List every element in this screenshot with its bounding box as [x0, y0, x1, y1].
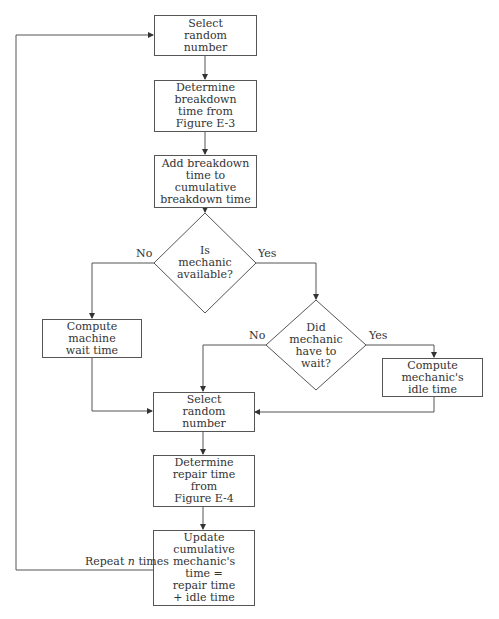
repeat-suffix: times	[135, 555, 169, 568]
select-random-number-box-2: Select random number	[153, 392, 255, 432]
repeat-prefix: Repeat	[85, 555, 128, 568]
update-cumulative-time-box: Update cumulative mechanic's time = repa…	[153, 530, 255, 606]
decision2-yes-label: Yes	[369, 330, 387, 342]
compute-machine-wait-box: Compute machine wait time	[42, 319, 142, 358]
decision1-yes-label: Yes	[258, 248, 276, 260]
determine-repair-time-box: Determine repair time from Figure E-4	[153, 455, 255, 507]
did-mechanic-wait-decision: Did mechanic have to wait?	[281, 318, 351, 374]
compute-mechanic-idle-box: Compute mechanic's idle time	[382, 358, 483, 397]
is-mechanic-available-decision: Is mechanic available?	[165, 240, 245, 286]
decision2-no-label: No	[249, 330, 265, 342]
determine-breakdown-time-box: Determine breakdown time from Figure E-3	[154, 80, 257, 132]
repeat-n-times-label: Repeat n times	[85, 556, 169, 568]
add-breakdown-time-box: Add breakdown time to cumulative breakdo…	[154, 155, 257, 208]
select-random-number-box: Select random number	[154, 15, 257, 56]
repeat-n: n	[128, 555, 135, 568]
decision1-no-label: No	[136, 248, 152, 260]
